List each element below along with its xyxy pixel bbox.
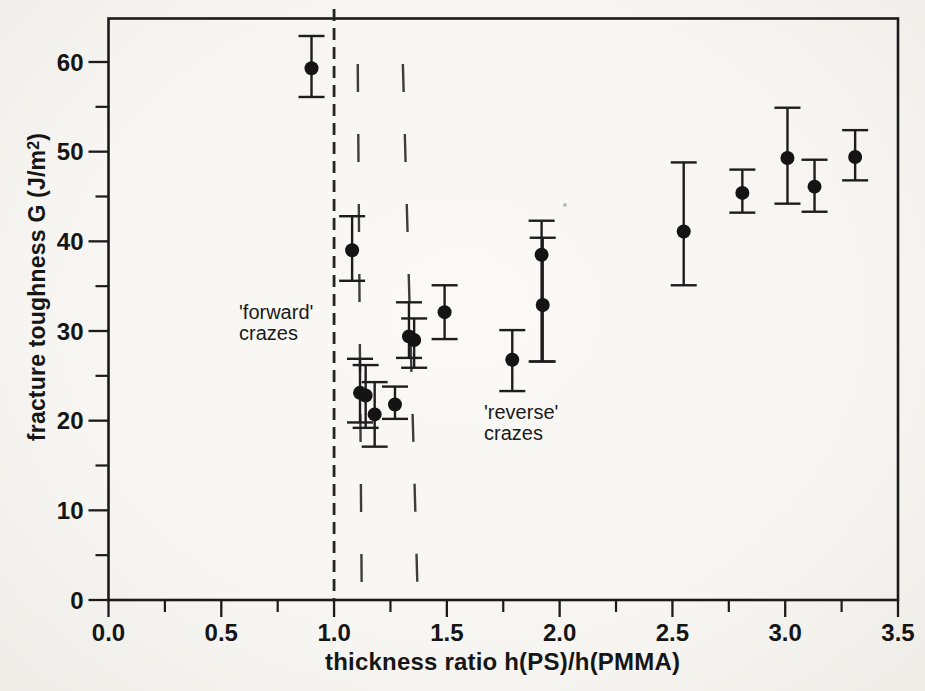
- figure: 0.00.51.01.52.02.53.03.50102030405060 fr…: [0, 0, 925, 691]
- data-point-dot: [808, 180, 822, 194]
- plot-border: [109, 19, 899, 601]
- data-point-dot: [345, 243, 359, 257]
- annotation-reverse-crazes: 'reverse' crazes: [484, 402, 558, 444]
- y-axis-title-main: fracture toughness G (J/m: [24, 150, 50, 441]
- annotation-forward-crazes: 'forward' crazes: [239, 302, 313, 344]
- y-tick-label: 60: [57, 49, 84, 76]
- scan-speck: [563, 203, 567, 207]
- y-axis-title-superscript: 2: [25, 141, 42, 150]
- boundary-long-dash-line: [358, 64, 362, 607]
- x-tick-label: 3.0: [769, 619, 802, 646]
- data-point-dot: [368, 407, 382, 421]
- data-point-dot: [438, 305, 452, 319]
- y-tick-label: 20: [57, 407, 84, 434]
- data-point-dot: [780, 151, 794, 165]
- data-point-dot: [359, 389, 373, 403]
- x-tick-label: 3.5: [881, 619, 914, 646]
- x-tick-label: 0.0: [92, 619, 125, 646]
- y-axis-title: fracture toughness G (J/m2): [24, 133, 51, 441]
- data-point-dot: [677, 224, 691, 238]
- x-tick-label: 1.0: [317, 619, 350, 646]
- y-tick-label: 50: [57, 138, 84, 165]
- y-tick-label: 0: [70, 587, 83, 614]
- data-point-dot: [535, 248, 549, 262]
- x-tick-label: 2.5: [656, 619, 689, 646]
- y-tick-label: 40: [57, 228, 84, 255]
- data-point-dot: [305, 61, 319, 75]
- y-tick-label: 10: [57, 497, 84, 524]
- x-tick-label: 2.0: [543, 619, 576, 646]
- data-point-dot: [735, 186, 749, 200]
- data-point-dot: [505, 353, 519, 367]
- data-point-dot: [848, 150, 862, 164]
- x-tick-label: 1.5: [430, 619, 463, 646]
- data-point-dot: [388, 398, 402, 412]
- x-tick-label: 0.5: [205, 619, 238, 646]
- x-axis-title: thickness ratio h(PS)/h(PMMA): [325, 648, 625, 676]
- data-point-dot: [407, 333, 421, 347]
- y-tick-label: 30: [57, 318, 84, 345]
- data-point-dot: [536, 298, 550, 312]
- chart-canvas: 0.00.51.01.52.02.53.03.50102030405060: [0, 0, 925, 691]
- y-axis-title-close: ): [24, 133, 50, 141]
